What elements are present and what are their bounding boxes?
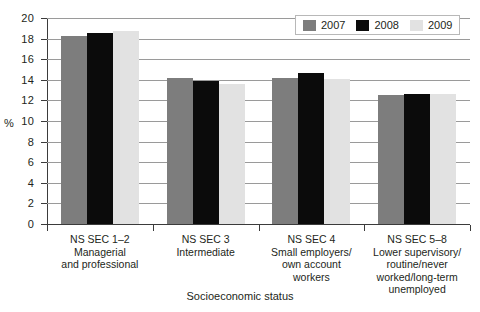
y-axis-tick (41, 121, 47, 122)
y-axis-tick (41, 80, 47, 81)
x-axis-tick (153, 225, 154, 231)
y-axis-tick-label: 4 (0, 178, 34, 189)
legend-item-2008: 2008 (356, 20, 398, 31)
bar-2007 (378, 95, 404, 224)
y-axis-tick-label: 16 (0, 54, 34, 65)
y-axis-tick-label: 20 (0, 13, 34, 24)
y-axis-tick (41, 39, 47, 40)
legend: 2007 2008 2009 (295, 15, 460, 35)
legend-item-2007: 2007 (303, 20, 345, 31)
x-axis-tick-end (470, 225, 471, 231)
bar-group (153, 18, 259, 224)
category-description-line: routine/never (354, 258, 480, 271)
y-axis-tick (41, 183, 47, 184)
bar-2008 (87, 33, 113, 224)
y-axis-tick (41, 100, 47, 101)
legend-swatch-2007 (303, 20, 316, 31)
bar-2008 (193, 81, 219, 224)
bar-2007 (167, 78, 193, 224)
x-axis-tick (364, 225, 365, 231)
y-axis-tick-label: 14 (0, 75, 34, 86)
bar-2008 (404, 94, 430, 224)
legend-label-2009: 2009 (428, 20, 452, 31)
x-axis-tick-origin (47, 225, 48, 231)
category-name: NS SEC 5–8 (354, 233, 480, 246)
y-axis-tick-label: 12 (0, 95, 34, 106)
category-description-line: Lower supervisory/ (354, 246, 480, 259)
plot-area (47, 18, 470, 224)
y-axis-tick (41, 59, 47, 60)
legend-item-2009: 2009 (410, 20, 452, 31)
legend-label-2008: 2008 (374, 20, 398, 31)
y-axis-tick-label: 2 (0, 198, 34, 209)
bar-group (259, 18, 365, 224)
y-axis-tick-label: 10 (0, 116, 34, 127)
y-axis-tick-label: 8 (0, 137, 34, 148)
x-axis-title: Socioeconomic status (0, 290, 480, 302)
legend-swatch-2008 (356, 20, 369, 31)
legend-label-2007: 2007 (321, 20, 345, 31)
bar-2008 (298, 73, 324, 224)
y-axis-tick-label: 18 (0, 34, 34, 45)
bar-2009 (219, 84, 245, 224)
category-description-line: worked/long-term (354, 271, 480, 284)
bar-2009 (113, 31, 139, 224)
bar-2007 (272, 78, 298, 224)
bar-chart: % 02468101214161820 NS SEC 1–2Managerial… (0, 0, 480, 312)
legend-swatch-2009 (410, 20, 423, 31)
bar-2007 (61, 36, 87, 224)
bar-2009 (324, 79, 350, 224)
y-axis-tick (41, 18, 47, 19)
y-axis-tick-label: 6 (0, 157, 34, 168)
bar-2009 (430, 94, 456, 224)
y-axis-tick (41, 142, 47, 143)
y-axis-tick (41, 203, 47, 204)
bar-group (47, 18, 153, 224)
category-description-line: and professional (37, 258, 163, 271)
x-axis-tick (259, 225, 260, 231)
y-axis-tick (41, 162, 47, 163)
y-axis-tick-label: 0 (0, 219, 34, 230)
x-axis-category-label: NS SEC 5–8Lower supervisory/routine/neve… (354, 233, 480, 296)
bar-group (364, 18, 470, 224)
